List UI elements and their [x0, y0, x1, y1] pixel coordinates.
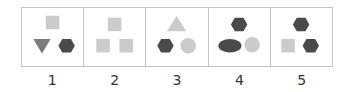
figure-label: 4 [208, 72, 270, 88]
figure-labels: 1 2 3 4 5 [21, 72, 333, 88]
square-icon [108, 18, 122, 32]
figure-4[interactable] [209, 8, 271, 66]
hexagon-icon [302, 39, 318, 53]
figure-5[interactable] [271, 8, 332, 66]
figure-5-shapes [271, 8, 332, 66]
hexagon-icon [293, 18, 309, 32]
square-icon [120, 39, 134, 53]
figure-1-shapes [22, 8, 83, 66]
circle-icon [181, 38, 196, 53]
square-icon [46, 16, 60, 30]
ellipse-icon [218, 39, 241, 53]
hexagon-icon [58, 39, 74, 53]
hexagon-icon [158, 39, 174, 53]
circle-icon [244, 37, 259, 52]
square-icon [281, 39, 295, 53]
square-icon [96, 39, 110, 53]
figure-label: 5 [271, 72, 333, 88]
figure-3[interactable] [146, 8, 208, 66]
figure-2[interactable] [84, 8, 146, 66]
figure-label: 1 [21, 72, 83, 88]
figure-label: 2 [83, 72, 145, 88]
figure-3-shapes [146, 8, 207, 66]
figure-2-shapes [84, 8, 145, 66]
hexagon-icon [231, 18, 247, 32]
triangle-up-icon [167, 16, 186, 31]
figure-4-shapes [209, 8, 270, 66]
figure-strip [21, 7, 333, 67]
figure-label: 3 [146, 72, 208, 88]
triangle-down-icon [33, 39, 50, 54]
figure-1[interactable] [22, 8, 84, 66]
